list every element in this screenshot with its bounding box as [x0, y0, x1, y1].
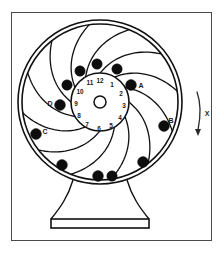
- ball-label-b: B: [168, 117, 173, 124]
- clock-number-12: 12: [96, 77, 104, 84]
- ball-marker-1: [92, 59, 102, 69]
- ball-marker-7: [93, 171, 104, 182]
- stand-base-plate: [51, 219, 149, 228]
- wheel-diagram-svg: 121234567891011 ABCD X: [0, 0, 224, 256]
- clock-number-2: 2: [119, 90, 123, 97]
- rotation-axis-label: X: [205, 110, 210, 117]
- ball-marker-6: [57, 160, 68, 171]
- ball-label-c: C: [42, 128, 47, 135]
- ball-marker-2: [75, 66, 85, 76]
- clock-number-5: 5: [109, 122, 113, 129]
- clock-number-4: 4: [118, 114, 122, 121]
- figure-container: 121234567891011 ABCD X: [0, 0, 224, 256]
- clock-number-11: 11: [87, 79, 94, 86]
- ball-marker-12: [112, 64, 122, 74]
- ball-marker-8: [107, 171, 117, 181]
- clock-number-3: 3: [122, 102, 126, 109]
- clock-number-6: 6: [97, 125, 101, 132]
- clock-number-8: 8: [77, 112, 81, 119]
- ball-marker-a: [126, 80, 137, 91]
- clock-number-1: 1: [110, 81, 114, 88]
- ball-marker-c: [31, 129, 42, 140]
- ball-marker-3: [62, 80, 72, 90]
- ball-marker-9: [138, 157, 149, 168]
- ball-label-a: A: [138, 82, 143, 89]
- clock-number-10: 10: [76, 88, 84, 95]
- clock-number-9: 9: [74, 100, 78, 107]
- clock-number-7: 7: [85, 121, 89, 128]
- ball-label-d: D: [47, 100, 52, 107]
- hub-center-bore: [94, 96, 106, 108]
- ball-marker-d: [55, 100, 66, 111]
